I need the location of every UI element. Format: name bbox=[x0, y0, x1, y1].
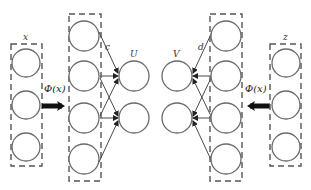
output-node bbox=[162, 103, 192, 133]
hidden-node bbox=[69, 144, 99, 174]
hidden-node bbox=[69, 61, 99, 91]
input-node bbox=[12, 91, 40, 119]
input-node bbox=[272, 49, 300, 77]
hidden-node bbox=[211, 144, 241, 174]
edge bbox=[99, 121, 118, 162]
edge bbox=[99, 32, 118, 73]
input-layer-z: z bbox=[270, 32, 301, 166]
two-branch-network-diagram: x Φ(x) c U bbox=[0, 0, 311, 190]
mapping-arrow-left: Φ(x) bbox=[42, 83, 66, 106]
hidden-node bbox=[69, 103, 99, 133]
hidden-node bbox=[69, 21, 99, 51]
output-label-u: U bbox=[130, 49, 138, 59]
right-branch: V d Φ(x) z bbox=[162, 14, 301, 181]
output-node bbox=[119, 61, 149, 91]
output-layer-v: V bbox=[162, 49, 192, 133]
edge bbox=[193, 121, 212, 162]
output-layer-u: U bbox=[119, 49, 149, 133]
input-node bbox=[272, 91, 300, 119]
connections-d: d bbox=[193, 32, 212, 162]
mapping-label-left: Φ(x) bbox=[44, 83, 66, 94]
input-label-z: z bbox=[282, 32, 288, 42]
input-layer-x: x bbox=[11, 32, 42, 166]
output-node bbox=[162, 61, 192, 91]
input-label-x: x bbox=[23, 32, 28, 42]
input-node bbox=[272, 133, 300, 161]
mapping-label-right: Φ(x) bbox=[245, 83, 267, 94]
hidden-node bbox=[211, 103, 241, 133]
output-node bbox=[119, 103, 149, 133]
hidden-layer-left bbox=[69, 14, 101, 181]
hidden-layer-right bbox=[210, 14, 242, 181]
connections-c: c bbox=[99, 32, 118, 162]
input-node bbox=[12, 49, 40, 77]
mapping-arrow-right: Φ(x) bbox=[245, 83, 270, 106]
edge bbox=[193, 32, 212, 73]
hidden-node bbox=[211, 61, 241, 91]
output-label-v: V bbox=[173, 49, 181, 59]
left-branch: x Φ(x) c U bbox=[11, 14, 149, 181]
input-node bbox=[12, 133, 40, 161]
weight-label-d: d bbox=[198, 42, 204, 52]
hidden-node bbox=[211, 21, 241, 51]
weight-label-c: c bbox=[105, 42, 110, 52]
